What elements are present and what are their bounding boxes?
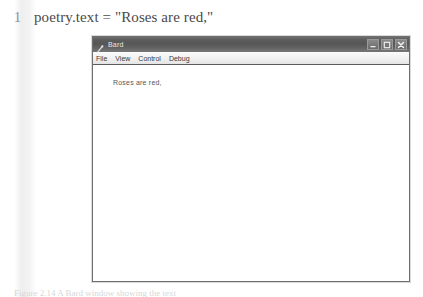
window-menubar: File View Control Debug (93, 52, 409, 65)
menu-item-debug[interactable]: Debug (169, 55, 195, 62)
menu-item-view[interactable]: View (115, 55, 135, 62)
window-titlebar[interactable]: Bard (93, 37, 409, 52)
window-title: Bard (108, 41, 124, 48)
figure-caption: Figure 2.14 A Bard window showing the te… (14, 288, 176, 297)
window-content-area[interactable]: Roses are red, (93, 65, 409, 280)
close-icon[interactable] (395, 39, 407, 50)
scan-artifact-band (14, 0, 36, 297)
window-controls (367, 39, 408, 50)
code-line-number: 1 (14, 10, 34, 26)
code-line-text: poetry.text = "Roses are red," (34, 9, 213, 26)
maximize-icon[interactable] (381, 39, 393, 50)
menu-item-control[interactable]: Control (138, 55, 166, 62)
code-line: 1 poetry.text = "Roses are red," (14, 9, 213, 26)
menu-item-file[interactable]: File (96, 55, 112, 62)
bard-app-icon (95, 40, 105, 50)
minimize-icon[interactable] (367, 39, 379, 50)
bard-application-window: Bard File View Control Debug (92, 36, 410, 282)
content-output-text: Roses are red, (113, 79, 162, 86)
